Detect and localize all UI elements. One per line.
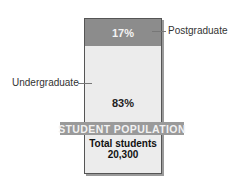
total-label: Total students	[84, 138, 162, 149]
student-population-chart: 17% 83% STUDENT POPULATION Total student…	[0, 0, 234, 181]
undergraduate-percent: 83%	[85, 97, 161, 109]
chart-title-banner: STUDENT POPULATION	[60, 122, 184, 135]
postgraduate-percent: 17%	[112, 27, 134, 39]
postgraduate-leader-line	[152, 31, 166, 32]
total-value: 20,300	[84, 149, 162, 160]
total-students: Total students 20,300	[84, 138, 162, 160]
undergraduate-label: Undergraduate	[12, 77, 79, 88]
postgraduate-label: Postgraduate	[168, 25, 228, 36]
chart-title: STUDENT POPULATION	[58, 123, 186, 135]
postgraduate-segment: 17%	[85, 19, 161, 46]
undergraduate-leader-line	[78, 83, 92, 84]
